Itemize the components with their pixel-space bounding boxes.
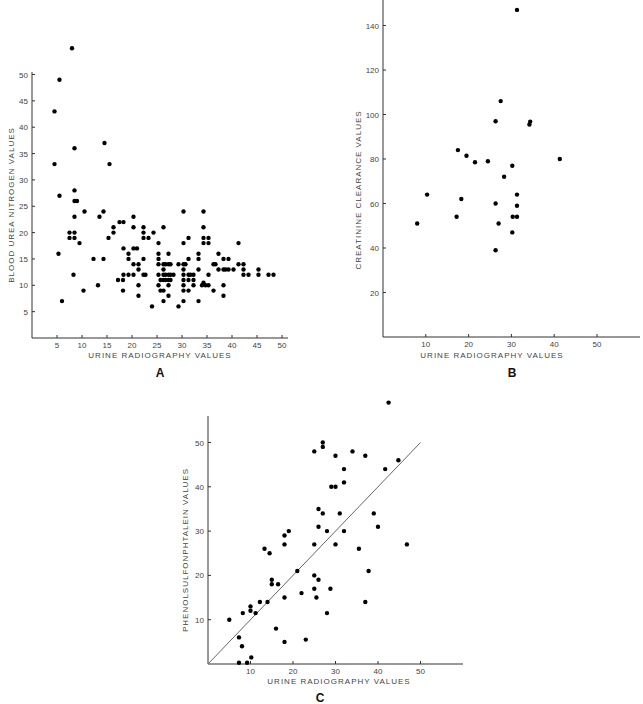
data-point: [515, 215, 519, 219]
data-point: [166, 283, 170, 287]
data-point: [265, 600, 269, 604]
y-tick-label: 50: [195, 439, 204, 448]
data-point: [168, 278, 172, 282]
data-point: [60, 299, 64, 303]
data-point: [258, 600, 262, 604]
data-point: [282, 533, 286, 537]
data-point: [241, 262, 245, 266]
data-point: [241, 273, 245, 277]
data-point: [321, 440, 325, 444]
data-point: [227, 618, 231, 622]
chart-c-axes: 10203040501020304050: [195, 416, 463, 676]
data-point: [338, 511, 342, 515]
x-tick-label: 30: [331, 667, 340, 676]
x-tick-label: 20: [128, 341, 137, 350]
data-point: [396, 458, 400, 462]
data-point: [52, 162, 56, 166]
data-point: [186, 236, 190, 240]
data-point: [116, 278, 120, 282]
data-point: [249, 655, 253, 659]
data-point: [101, 257, 105, 261]
data-point: [282, 542, 286, 546]
y-tick-label: 25: [19, 202, 28, 211]
data-point: [206, 273, 210, 277]
data-point: [72, 236, 76, 240]
data-point: [196, 267, 200, 271]
data-point: [342, 480, 346, 484]
data-point: [312, 449, 316, 453]
x-tick-label: 50: [278, 341, 287, 350]
data-point: [186, 288, 190, 292]
y-tick-label: 50: [19, 71, 28, 80]
data-point: [425, 192, 429, 196]
data-point: [186, 278, 190, 282]
data-point: [183, 262, 187, 266]
data-point: [372, 511, 376, 515]
data-point: [333, 485, 337, 489]
data-point: [321, 445, 325, 449]
data-point: [161, 267, 165, 271]
data-point: [131, 215, 135, 219]
data-point: [246, 273, 250, 277]
data-point: [150, 304, 154, 308]
data-point: [67, 230, 71, 234]
x-tick-label: 10: [421, 340, 430, 349]
data-point: [67, 236, 71, 240]
chart-a: 51015202530354045505101520253035404550 U…: [7, 46, 288, 380]
x-tick-label: 50: [416, 667, 425, 676]
data-point: [161, 288, 165, 292]
y-tick-label: 40: [195, 483, 204, 492]
data-point: [213, 262, 217, 266]
data-point: [181, 288, 185, 292]
x-tick-label: 30: [507, 340, 516, 349]
data-point: [126, 273, 130, 277]
data-point: [117, 220, 121, 224]
data-point: [270, 578, 274, 582]
data-point: [156, 273, 160, 277]
data-point: [143, 273, 147, 277]
chart-a-points: [52, 46, 275, 309]
data-point: [126, 252, 130, 256]
data-point: [71, 273, 75, 277]
data-point: [366, 569, 370, 573]
data-point: [216, 267, 220, 271]
x-tick-label: 10: [246, 667, 255, 676]
data-point: [236, 241, 240, 245]
data-point: [271, 273, 275, 277]
data-point: [141, 225, 145, 229]
data-point: [201, 241, 205, 245]
data-point: [161, 225, 165, 229]
data-point: [156, 252, 160, 256]
y-tick-label: 100: [366, 111, 380, 120]
data-point: [136, 294, 140, 298]
chart-b-x-label: URINE RADIOGRAPHY VALUES: [420, 351, 563, 360]
data-point: [81, 288, 85, 292]
data-point: [82, 209, 86, 213]
data-point: [176, 304, 180, 308]
data-point: [107, 162, 111, 166]
data-point: [221, 283, 225, 287]
data-point: [241, 611, 245, 615]
data-point: [499, 99, 503, 103]
y-tick-label: 140: [366, 22, 380, 31]
data-point: [328, 587, 332, 591]
data-point: [237, 661, 241, 665]
chart-a-y-label: BLOOD UREA NITROGEN VALUES: [7, 127, 16, 283]
data-point: [350, 449, 354, 453]
data-point: [141, 230, 145, 234]
data-point: [329, 485, 333, 489]
data-point: [237, 635, 241, 639]
data-point: [141, 236, 145, 240]
data-point: [131, 225, 135, 229]
data-point: [171, 273, 175, 277]
data-point: [196, 299, 200, 303]
data-point: [256, 273, 260, 277]
chart-c: 10203040501020304050 URINE RADIOGRAPHY V…: [181, 400, 463, 704]
data-point: [342, 529, 346, 533]
y-tick-label: 10: [19, 281, 28, 290]
data-point: [201, 225, 205, 229]
data-point: [131, 273, 135, 277]
data-point: [206, 283, 210, 287]
chart-a-panel-label: A: [156, 366, 165, 380]
data-point: [211, 288, 215, 292]
